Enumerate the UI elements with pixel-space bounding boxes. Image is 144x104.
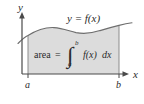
formula-area-word: area	[34, 49, 51, 60]
y-axis-label: y	[17, 1, 23, 13]
curve-label: y = f(x)	[66, 12, 100, 25]
integral-upper-limit: b	[75, 39, 79, 47]
integral-lower-limit: a	[68, 60, 72, 68]
formula-differential: dx	[102, 49, 112, 60]
x-axis-arrowhead-icon	[123, 71, 130, 77]
integral-area-figure: y x a b y = f(x) area = ∫ b a f(x) dx	[0, 0, 144, 104]
formula-integrand: f(x)	[83, 49, 98, 61]
upper-bound-label-b: b	[116, 79, 121, 90]
x-axis-label: x	[132, 68, 138, 80]
lower-bound-label-a: a	[25, 79, 30, 90]
formula-equals-sign: =	[55, 49, 61, 60]
